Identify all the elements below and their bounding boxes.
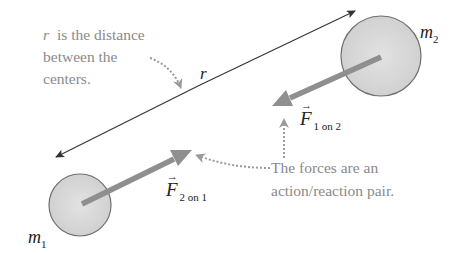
vector-arrow-f1on2-icon: → xyxy=(301,99,312,111)
forces-annotation-line-2: action/reaction pair. xyxy=(271,182,394,199)
vector-arrow-f2on1-icon: → xyxy=(167,170,178,182)
sphere-m1-icon xyxy=(49,174,111,236)
force-label-f1on2: F1 on 2 xyxy=(299,108,341,132)
arrowhead-f1on2-icon xyxy=(272,90,293,106)
annotation-var-r: r xyxy=(43,26,50,43)
annotation-line-3: centers. xyxy=(43,70,91,87)
force-label-f2on1: F2 on 1 xyxy=(165,179,207,203)
forces-annotation: The forces are an action/reaction pair. xyxy=(196,119,394,199)
annotation-line-1: is the distance xyxy=(57,26,145,43)
sphere-m2-icon xyxy=(341,16,421,96)
mass-m2-label: m2 xyxy=(420,22,439,45)
dotted-pointer-icon xyxy=(150,58,181,88)
mass-m1: m1 xyxy=(28,174,111,250)
mass-m1-label: m1 xyxy=(28,227,47,250)
dotted-pointer-to-f2on1-icon xyxy=(196,155,270,168)
mass-m2: m2 xyxy=(341,16,439,96)
svg-text:r is the distance: r is the distance xyxy=(43,26,145,43)
gravity-diagram: r r is the distance between the centers.… xyxy=(0,0,468,253)
distance-annotation: r is the distance between the centers. xyxy=(43,26,181,88)
forces-annotation-line-1: The forces are an xyxy=(271,159,378,176)
annotation-line-2: between the xyxy=(43,48,118,65)
distance-label: r xyxy=(200,64,207,83)
